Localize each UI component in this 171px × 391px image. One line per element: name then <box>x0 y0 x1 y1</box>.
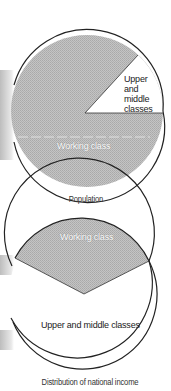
population-upper-middle-label: Upper and middle classes <box>124 74 153 114</box>
population-pie <box>11 29 165 202</box>
income-caption: Distribution of national income <box>27 377 153 387</box>
income-working-class-label: Working class <box>60 232 113 242</box>
population-working-class-label: Working class <box>57 141 110 151</box>
income-pie <box>4 158 159 369</box>
income-upper-middle-label: Upper and middle classes <box>41 320 140 330</box>
population-caption: Population <box>54 194 119 204</box>
